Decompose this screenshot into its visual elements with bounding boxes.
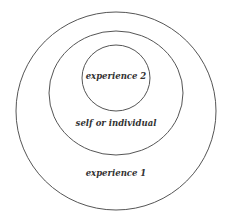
- middle-circle: [49, 31, 183, 155]
- label-experience-2: experience 2: [86, 71, 147, 81]
- nested-circles-diagram: experience 2 self or individual experien…: [0, 0, 229, 216]
- label-self-or-individual: self or individual: [76, 118, 158, 128]
- label-experience-1: experience 1: [86, 168, 147, 178]
